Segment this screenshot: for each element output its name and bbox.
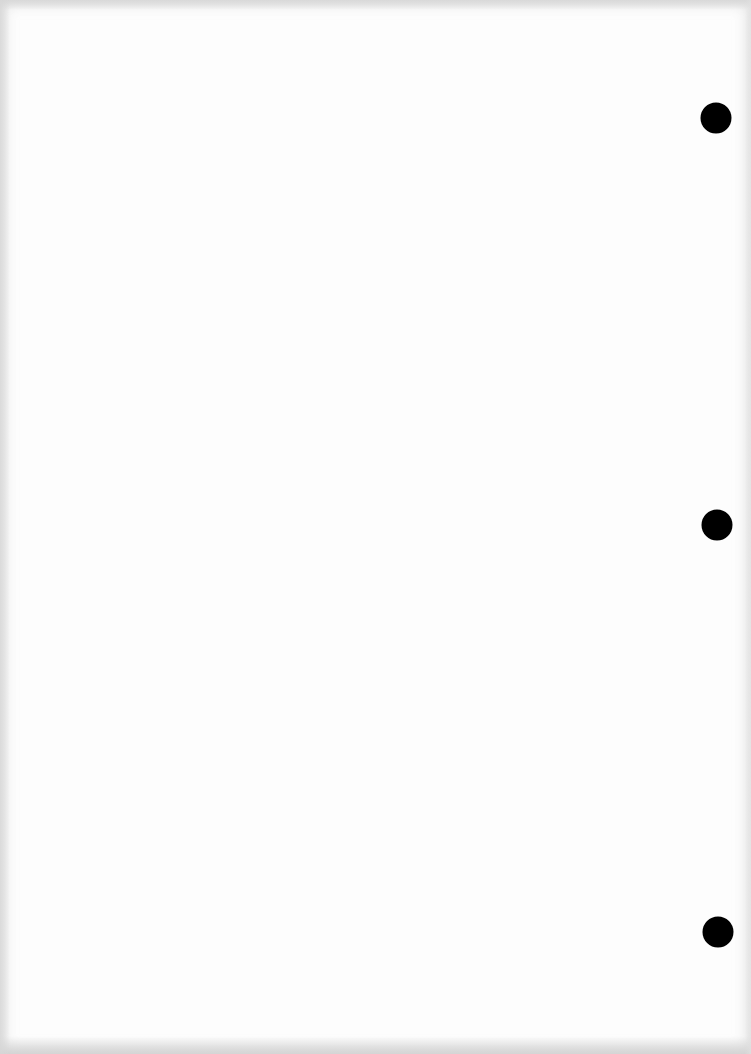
punch-hole-top-icon — [701, 103, 732, 134]
page-edge-right — [745, 0, 751, 1054]
scanned-page — [0, 0, 751, 1054]
punch-hole-middle-icon — [702, 510, 733, 541]
page-edge-left — [0, 0, 10, 1054]
page-edge-top — [0, 0, 751, 10]
punch-hole-bottom-icon — [703, 917, 734, 948]
page-edge-bottom — [0, 1036, 751, 1054]
